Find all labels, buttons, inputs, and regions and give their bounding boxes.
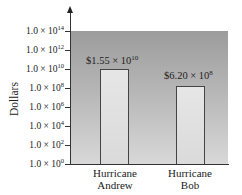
- y-tick-mark: [65, 50, 71, 51]
- y-tick-label: 1.0 × 1014: [26, 26, 64, 36]
- y-axis-arrow-icon: [67, 6, 73, 13]
- data-label-hurricane-bob: $6.20 × 108: [164, 70, 213, 81]
- y-tick-label: 1.0 × 106: [29, 102, 64, 112]
- y-tick-label: 1.0 × 104: [29, 121, 64, 131]
- category-label-line: Bob: [155, 179, 225, 191]
- y-tick-mark: [65, 88, 71, 89]
- y-axis-title: Dollars: [8, 79, 20, 119]
- y-tick-mark: [65, 164, 71, 165]
- y-tick-label: 1.0 × 1010: [26, 64, 64, 74]
- y-tick-label: 1.0 × 102: [29, 140, 64, 150]
- y-tick-mark: [65, 107, 71, 108]
- category-label-line: Hurricane: [80, 167, 150, 179]
- x-category-label-bob: Hurricane Bob: [155, 167, 225, 191]
- bar-hurricane-andrew: [100, 69, 129, 164]
- y-tick-mark: [65, 69, 71, 70]
- category-label-line: Andrew: [80, 179, 150, 191]
- y-tick-label: 1.0 × 100: [29, 159, 64, 169]
- bar-hurricane-bob: [176, 86, 205, 164]
- y-tick-mark: [65, 31, 71, 32]
- y-tick-label: 1.0 × 1012: [26, 45, 64, 55]
- x-axis: [70, 164, 229, 165]
- y-tick-mark: [65, 126, 71, 127]
- y-tick-label: 1.0 × 108: [29, 83, 64, 93]
- x-category-label-andrew: Hurricane Andrew: [80, 167, 150, 191]
- data-label-hurricane-andrew: $1.55 × 1010: [86, 55, 138, 66]
- category-label-line: Hurricane: [155, 167, 225, 179]
- y-tick-mark: [65, 145, 71, 146]
